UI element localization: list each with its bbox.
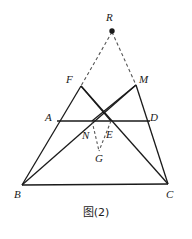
segment-RM [112,32,136,85]
point-label-F: F [66,74,73,85]
point-label-G: G [95,153,103,164]
point-label-N: N [82,130,89,141]
solid-edges [22,85,168,185]
geometry-diagram [0,0,192,239]
segment-MN [92,85,136,121]
segment-BM [22,85,136,185]
point-label-E: E [106,129,113,140]
point-label-R: R [106,12,113,23]
figure-caption: 图(2) [0,206,192,220]
segment-NG [92,121,99,151]
geometry-figure: R F M A D N E G B C 图(2) [0,0,192,239]
point-label-C: C [166,189,173,200]
segment-CM [136,85,168,184]
point-label-A: A [45,112,52,123]
segment-BC [22,184,168,185]
vertex-markers [109,28,114,33]
segment-RF [81,32,112,86]
point-label-B: B [14,189,21,200]
segment-FE [81,86,111,121]
point-label-M: M [139,74,148,85]
segment-BF [22,86,81,185]
point-label-D: D [150,112,158,123]
point-R-marker [109,28,114,33]
